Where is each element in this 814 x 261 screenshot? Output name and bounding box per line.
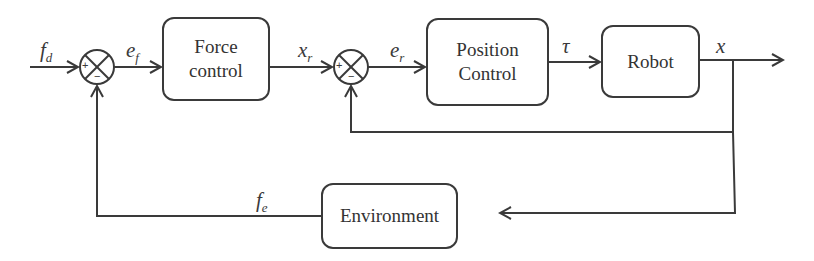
force-control-diagram: Force control Position Control Robot Env… [0, 0, 814, 261]
position-sum-minus-sign: − [348, 71, 354, 82]
signal-label-fe: fe [256, 190, 268, 214]
signal-label-ef: ef [126, 40, 139, 64]
signal-label-tau: τ [562, 36, 570, 57]
position-control-block: Position Control [426, 18, 549, 106]
force-sum-minus-sign: − [94, 71, 100, 82]
environment-input-path [500, 132, 735, 213]
robot-block: Robot [601, 25, 700, 98]
force-control-block: Force control [162, 17, 270, 101]
force-feedback-path [97, 86, 322, 216]
signal-label-fd: fd [40, 40, 52, 64]
position-sum-plus-sign: + [336, 60, 342, 71]
signal-label-xr: xr [298, 40, 312, 64]
force-sum-plus-sign: + [82, 60, 88, 71]
signal-label-er: er [390, 40, 404, 64]
signal-label-x: x [716, 36, 725, 57]
environment-block: Environment [321, 183, 458, 249]
